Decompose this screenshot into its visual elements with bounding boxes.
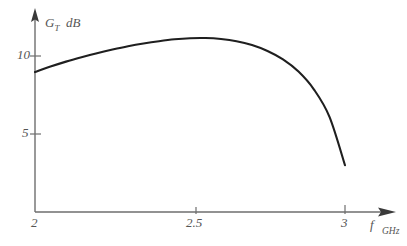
chart-canvas	[0, 0, 407, 246]
y-axis-title: GT dB	[45, 16, 80, 33]
x-tick-label-3: 3	[341, 216, 348, 229]
x-axis-unit: GHz	[382, 227, 399, 237]
data-series-curve	[35, 38, 345, 165]
y-tick-label-5: 5	[22, 126, 29, 139]
chart-figure: GT dB f GHz 10 5 2 2.5 3	[0, 0, 407, 246]
y-axis-symbol: G	[45, 15, 54, 30]
x-tick-label-2: 2	[31, 216, 38, 229]
y-axis-subscript: T	[54, 23, 59, 33]
x-axis-title: f	[370, 218, 374, 231]
x-tick-label-2point5: 2.5	[186, 216, 202, 229]
y-tick-label-10: 10	[17, 48, 30, 61]
y-axis-unit: dB	[66, 15, 80, 30]
